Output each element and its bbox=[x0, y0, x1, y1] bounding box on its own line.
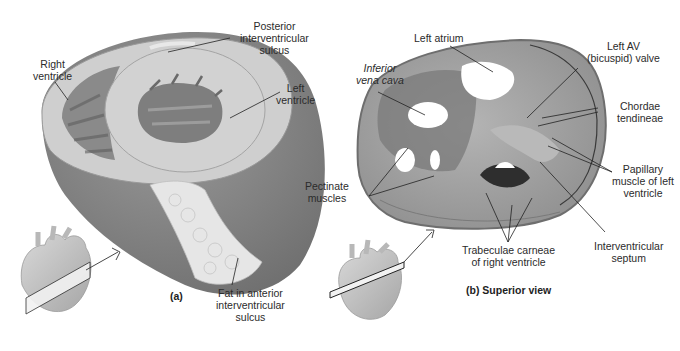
label-left-av-valve: Left AV (bicuspid) valve bbox=[587, 40, 660, 64]
inferior-vena-cava-opening bbox=[408, 102, 448, 128]
label-fat-anterior-sulcus: Fat in anterior interventricular sulcus bbox=[216, 287, 285, 323]
label-chordae-tendineae: Chordae tendineae bbox=[617, 100, 663, 124]
orientation-heart-icon-b bbox=[330, 230, 434, 319]
left-ventricle-cavity bbox=[138, 83, 223, 143]
label-pectinate-muscles: Pectinate muscles bbox=[305, 180, 349, 204]
label-papillary-muscle: Papillary muscle of left ventricle bbox=[612, 163, 674, 199]
caption-panel-a: (a) bbox=[170, 290, 183, 302]
label-trabeculae-carneae: Trabeculae carneae of right ventricle bbox=[462, 244, 555, 268]
label-left-ventricle: Left ventricle bbox=[276, 82, 315, 106]
anatomy-illustrations bbox=[0, 0, 680, 351]
label-inferior-vena-cava: Inferior vena cava bbox=[356, 62, 404, 86]
label-left-atrium: Left atrium bbox=[414, 32, 464, 44]
label-posterior-interventricular-sulcus: Posterior interventricular sulcus bbox=[240, 20, 309, 56]
label-right-ventricle: Right ventricle bbox=[33, 58, 72, 82]
orientation-heart-icon-a bbox=[21, 226, 120, 314]
label-interventricular-septum: Interventricular septum bbox=[594, 240, 663, 264]
caption-panel-b: (b) Superior view bbox=[466, 284, 551, 296]
heart-cross-section-figure: Posterior interventricular sulcus Right … bbox=[0, 0, 680, 351]
